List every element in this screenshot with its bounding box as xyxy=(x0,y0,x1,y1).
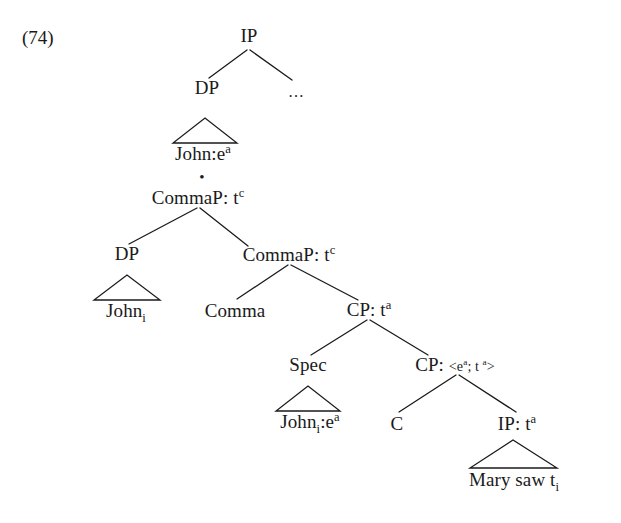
node-commap-top: CommaP: tc xyxy=(152,188,245,207)
node-cp-outer: CP: ta xyxy=(347,300,392,319)
branch-cp-cpinner xyxy=(370,320,428,355)
node-cp-inner-type: <ea; t a> xyxy=(449,358,495,374)
node-commap-top-text: CommaP: t xyxy=(152,187,239,208)
node-cp-outer-text: CP: t xyxy=(347,299,386,320)
node-ip-lower-text: IP: t xyxy=(498,413,531,434)
leaf-mary-text: Mary saw t xyxy=(469,469,555,490)
node-cp-outer-superscript: a xyxy=(386,298,392,312)
node-cp-inner-type-open: <e xyxy=(449,358,463,374)
node-ip-root: IP xyxy=(240,26,257,45)
branch-commap-commapinner xyxy=(200,208,248,246)
node-ip-lower-superscript: a xyxy=(531,412,537,426)
node-commap-inner-superscript: c xyxy=(330,243,336,257)
leaf-john-i-type-text: John xyxy=(280,411,316,432)
leaf-john-i-type-superscript: a xyxy=(334,410,340,424)
branch-cpinner-c xyxy=(399,375,456,412)
node-cp-inner-text: CP: xyxy=(415,354,449,375)
leaf-c: C xyxy=(391,414,404,433)
branch-commap-dp xyxy=(129,208,197,244)
leaf-comma: Comma xyxy=(205,301,266,320)
syntax-tree-figure: (74) IP DP xyxy=(0,0,621,523)
branch-cp-spec xyxy=(311,320,367,355)
leaf-john-type-e: John:ea xyxy=(175,144,231,163)
leaf-john-i-type-e: Johni:ea xyxy=(280,412,339,431)
branch-ip-dp xyxy=(209,50,247,78)
leaf-john-i: Johni xyxy=(106,301,146,320)
node-cp-inner-type-sep: ; t xyxy=(467,358,482,374)
triangle-dp-john xyxy=(173,118,237,143)
triangle-dp-johni xyxy=(94,275,160,300)
branch-commapinner-comma xyxy=(237,265,288,299)
branch-commapinner-cp xyxy=(291,265,358,300)
branch-cpinner-ip xyxy=(459,375,516,412)
leaf-mary-saw-t: Mary saw ti xyxy=(469,470,559,489)
leaf-john-i-text: John xyxy=(106,300,142,321)
node-ip-lower: IP: ta xyxy=(498,414,536,433)
node-dp-left: DP xyxy=(115,244,140,263)
leaf-john-text: John:e xyxy=(175,143,225,164)
node-commap-top-superscript: c xyxy=(239,186,245,200)
bullet-separator: • xyxy=(199,170,204,185)
node-cp-inner: CP: <ea; t a> xyxy=(415,355,495,374)
node-spec: Spec xyxy=(289,355,326,374)
node-commap-inner-text: CommaP: t xyxy=(243,244,330,265)
node-ellipsis: … xyxy=(288,84,304,100)
node-cp-inner-type-close: > xyxy=(487,358,495,374)
leaf-john-i-type-text2: :e xyxy=(320,411,334,432)
branch-ip-ellipsis xyxy=(250,50,292,80)
node-commap-inner: CommaP: tc xyxy=(243,245,336,264)
leaf-john-i-subscript: i xyxy=(142,311,146,325)
leaf-mary-subscript: i xyxy=(555,480,559,494)
node-dp-upper: DP xyxy=(195,78,220,97)
triangle-ip-mary xyxy=(470,440,557,468)
triangle-spec-johni xyxy=(276,386,340,411)
leaf-john-superscript: a xyxy=(225,142,231,156)
